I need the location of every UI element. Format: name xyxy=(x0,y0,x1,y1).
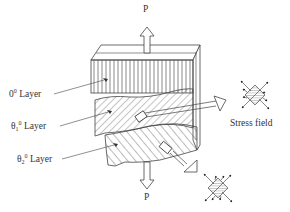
stress-field-label: Stress field xyxy=(230,119,272,129)
stress-element-2-icon xyxy=(204,174,232,202)
stress-element-1-icon xyxy=(241,81,269,109)
label-layer-theta2: θ20 Layer xyxy=(17,153,52,165)
bottom-load-label: P xyxy=(144,193,149,203)
layer-0 xyxy=(91,60,193,93)
label-layer-0: 00 Layer xyxy=(9,88,41,100)
label-layer-theta1: θ10 Layer xyxy=(11,120,46,132)
bottom-load-arrow-icon xyxy=(140,162,154,189)
laminate-diagram xyxy=(0,0,290,212)
top-load-label: P xyxy=(143,5,148,15)
